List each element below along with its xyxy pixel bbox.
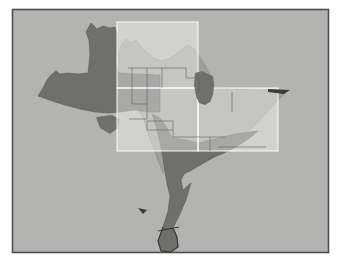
map-canvas — [0, 0, 341, 267]
map-figure — [0, 0, 341, 267]
quad-extent-bottom-left — [117, 88, 198, 151]
